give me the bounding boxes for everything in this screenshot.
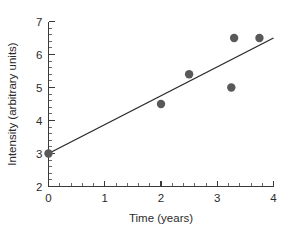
data-point: [44, 149, 52, 157]
y-tick-label: 6: [36, 49, 42, 61]
x-axis-title: Time (years): [129, 212, 193, 224]
y-tick-label: 3: [36, 148, 42, 160]
y-tick-label: 7: [36, 16, 42, 28]
y-axis-title: Intensity (arbitrary units): [6, 42, 18, 166]
y-tick-label: 5: [36, 82, 42, 94]
data-point: [227, 83, 235, 91]
data-point: [255, 34, 263, 42]
y-tick-label: 2: [36, 181, 42, 193]
data-point: [157, 100, 165, 108]
y-tick-label: 4: [36, 115, 43, 127]
chart-figure: 234567 01234 Time (years) Intensity (arb…: [0, 0, 294, 231]
chart-background: [0, 0, 294, 231]
x-tick-label: 2: [158, 192, 164, 204]
x-tick-label: 4: [270, 192, 277, 204]
data-point: [230, 34, 238, 42]
scatter-plot: 234567 01234 Time (years) Intensity (arb…: [0, 0, 294, 231]
x-tick-label: 1: [102, 192, 108, 204]
x-tick-label: 0: [45, 192, 51, 204]
x-tick-label: 3: [214, 192, 220, 204]
data-point: [185, 70, 193, 78]
